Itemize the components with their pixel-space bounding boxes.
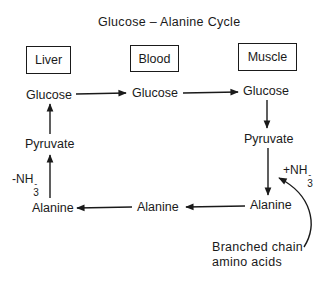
arrow-blood-to-liver-alanine <box>77 207 132 208</box>
arrow-liver-to-blood-glucose <box>76 93 126 94</box>
arrow-bcaa-to-amination <box>279 178 311 247</box>
arrow-muscle-to-blood-alanine <box>186 206 245 207</box>
arrow-blood-to-muscle-glucose <box>183 92 238 93</box>
pathway-arrows <box>0 0 332 283</box>
